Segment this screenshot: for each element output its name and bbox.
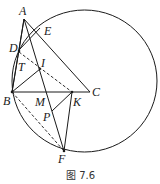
label-I: I bbox=[41, 57, 45, 69]
label-F: F bbox=[58, 153, 65, 165]
label-C: C bbox=[92, 86, 100, 98]
point-K bbox=[71, 91, 74, 94]
point-D bbox=[18, 50, 21, 53]
label-K: K bbox=[73, 96, 81, 108]
figure-drawing bbox=[0, 0, 160, 184]
segment-KF bbox=[64, 92, 72, 151]
segment-KP bbox=[52, 92, 72, 111]
segment-AF bbox=[24, 19, 64, 151]
geometry-figure: A E D T I B M K C P F 图 7.6 bbox=[0, 0, 160, 184]
label-D: D bbox=[9, 42, 18, 54]
label-P: P bbox=[43, 111, 50, 123]
figure-caption: 图 7.6 bbox=[66, 171, 95, 181]
circle bbox=[12, 10, 157, 152]
label-M: M bbox=[35, 96, 45, 108]
dashed-segment-DK bbox=[19, 52, 72, 92]
label-A: A bbox=[19, 5, 26, 17]
point-B bbox=[11, 91, 14, 94]
label-T: T bbox=[18, 61, 25, 73]
label-B: B bbox=[3, 95, 10, 107]
segment-BI bbox=[12, 69, 40, 92]
label-E: E bbox=[44, 25, 51, 37]
